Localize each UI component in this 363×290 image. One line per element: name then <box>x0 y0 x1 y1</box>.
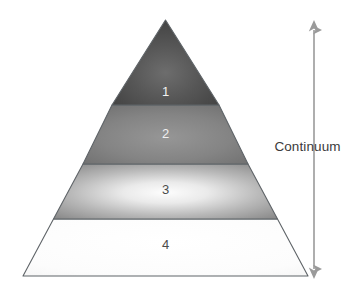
pyramid-level-1-label: 1 <box>162 84 169 99</box>
pyramid-level-3[interactable]: 3 <box>54 164 278 219</box>
continuum-label: Continuum <box>252 139 363 154</box>
diagram-canvas: 4 3 2 1 Continuum <box>0 0 363 290</box>
pyramid-level-4-label: 4 <box>162 237 169 252</box>
pyramid-level-1[interactable]: 1 <box>112 20 219 105</box>
pyramid-level-2-label: 2 <box>162 126 169 141</box>
pyramid-level-2[interactable]: 2 <box>83 105 248 164</box>
pyramid-level-3-label: 3 <box>162 182 169 197</box>
pyramid-level-4[interactable]: 4 <box>23 219 308 276</box>
arrow-up-head-icon <box>309 20 319 32</box>
arrow-down-head-icon <box>309 268 319 280</box>
